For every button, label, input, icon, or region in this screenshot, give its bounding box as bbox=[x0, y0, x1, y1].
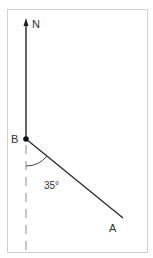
diagram-frame bbox=[8, 10, 148, 253]
angle-label: 35° bbox=[44, 180, 59, 191]
point-a-label: A bbox=[109, 222, 117, 234]
point-b-marker bbox=[23, 136, 29, 142]
bearing-diagram: N B 35° A bbox=[0, 0, 153, 258]
north-label: N bbox=[32, 18, 40, 30]
point-b-label: B bbox=[11, 133, 18, 145]
